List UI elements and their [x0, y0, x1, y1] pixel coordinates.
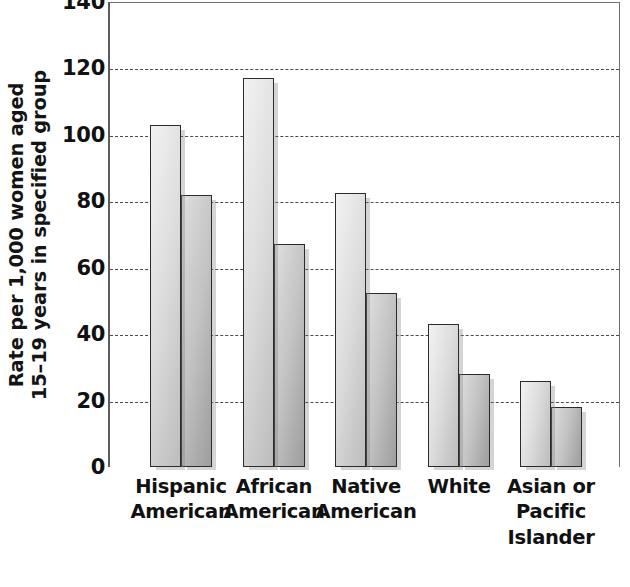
bar-2-white	[459, 374, 490, 467]
x-label-asian-or-pacific-islander: Asian orPacificIslander	[481, 474, 621, 550]
y-tick-label-100: 100	[35, 124, 105, 145]
bar-1-hispanic-american	[150, 125, 181, 467]
bar-1-asian-or-pacific-islander	[520, 381, 551, 467]
y-tick-label-20: 20	[35, 390, 105, 411]
x-label-line: American	[296, 499, 436, 524]
y-axis-title-line-2: 15–19 years in specified group	[28, 70, 51, 400]
y-tick-label-40: 40	[35, 324, 105, 345]
x-axis-category-labels: HispanicAmericanAfricanAmericanNativeAme…	[110, 474, 620, 584]
bar-1-white	[428, 324, 459, 467]
y-tick-label-140: 140	[35, 0, 105, 13]
bar-1-native-american	[335, 193, 366, 467]
x-label-line: Pacific	[481, 499, 621, 524]
y-tick-label-120: 120	[35, 58, 105, 79]
y-axis-title-line-1: Rate per 1,000 women aged	[5, 70, 28, 400]
y-tick-label-0: 0	[35, 457, 105, 478]
x-label-line: Islander	[481, 525, 621, 550]
y-tick-label-60: 60	[35, 257, 105, 278]
x-label-line: Asian or	[481, 474, 621, 499]
bar-2-hispanic-american	[181, 195, 212, 467]
bar-1-african-american	[243, 78, 274, 467]
bar-2-asian-or-pacific-islander	[551, 407, 582, 467]
bar-2-african-american	[274, 244, 305, 467]
y-tick-label-80: 80	[35, 191, 105, 212]
bar-2-native-american	[366, 293, 397, 467]
bars-layer	[110, 2, 620, 467]
bar-chart-figure: Rate per 1,000 women aged 15–19 years in…	[0, 0, 630, 587]
